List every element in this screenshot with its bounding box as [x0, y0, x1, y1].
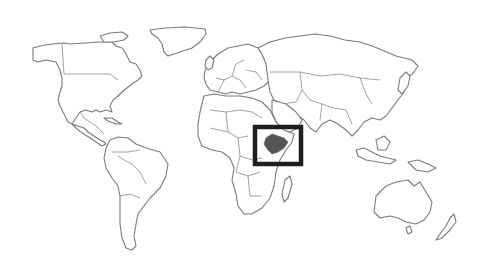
north-america	[33, 42, 142, 124]
caribbean	[104, 118, 122, 124]
new-zealand	[436, 214, 456, 240]
map-canvas	[0, 0, 487, 280]
borneo	[376, 136, 390, 150]
canada-islands	[100, 32, 128, 42]
new-guinea	[408, 160, 436, 172]
tasmania	[406, 226, 412, 234]
south-america	[104, 137, 168, 250]
indonesia	[356, 148, 396, 164]
madagascar	[282, 176, 292, 202]
australia	[374, 180, 432, 224]
central-america	[72, 124, 106, 146]
greenland	[150, 27, 206, 56]
